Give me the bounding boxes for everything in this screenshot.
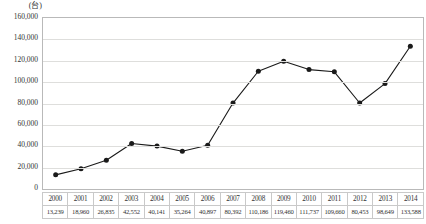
table-cell-year: 2003 xyxy=(119,193,144,206)
table-cell-year: 2000 xyxy=(43,193,68,206)
y-axis-tick-label: 0 xyxy=(34,184,38,192)
data-point-marker xyxy=(53,172,58,177)
table-cell-value: 35,264 xyxy=(169,206,194,219)
table-cell-value: 133,588 xyxy=(398,206,424,219)
y-axis-tick-label: 160,000 xyxy=(14,13,38,21)
data-point-marker xyxy=(180,149,185,154)
table-cell-year: 2012 xyxy=(347,193,372,206)
y-axis-unit-label: (台) xyxy=(29,1,42,10)
y-axis: 020,00040,00060,00080,000100,000120,0001… xyxy=(0,17,42,190)
table-cell-value: 18,960 xyxy=(68,206,93,219)
gridline xyxy=(43,168,423,169)
y-axis-tick-label: 40,000 xyxy=(17,141,38,149)
gridline xyxy=(43,61,423,62)
table-cell-value: 119,460 xyxy=(271,206,296,219)
table-cell-year: 2006 xyxy=(195,193,220,206)
table-cell-year: 2013 xyxy=(373,193,398,206)
plot-area xyxy=(42,17,424,190)
gridline xyxy=(43,125,423,126)
gridline xyxy=(43,104,423,105)
table-cell-value: 111,737 xyxy=(296,206,321,219)
gridline xyxy=(43,146,423,147)
plot-inner xyxy=(43,18,423,189)
table-cell-year: 2014 xyxy=(398,193,424,206)
table-cell-value: 110,186 xyxy=(246,206,271,219)
table-cell-year: 2007 xyxy=(220,193,245,206)
table-cell-year: 2011 xyxy=(322,193,347,206)
data-point-marker xyxy=(104,158,109,163)
y-axis-tick-label: 80,000 xyxy=(17,99,38,107)
table-row-years: 2000200120022003200420052006200720082009… xyxy=(43,193,424,206)
data-point-marker xyxy=(408,44,413,49)
table-cell-value: 80,392 xyxy=(220,206,245,219)
chart-figure: (台) 020,00040,00060,00080,000100,000120,… xyxy=(0,0,426,224)
table-cell-year: 2010 xyxy=(296,193,321,206)
data-point-marker xyxy=(307,67,312,72)
data-table: 2000200120022003200420052006200720082009… xyxy=(42,192,424,219)
table-cell-year: 2001 xyxy=(68,193,93,206)
table-cell-year: 2004 xyxy=(144,193,169,206)
y-axis-tick-label: 100,000 xyxy=(14,77,38,85)
y-axis-tick-label: 20,000 xyxy=(17,163,38,171)
y-axis-tick-label: 60,000 xyxy=(17,120,38,128)
table-cell-value: 109,660 xyxy=(322,206,347,219)
y-axis-tick-label: 120,000 xyxy=(14,56,38,64)
table-cell-year: 2005 xyxy=(169,193,194,206)
gridline xyxy=(43,39,423,40)
table-cell-year: 2008 xyxy=(246,193,271,206)
gridline xyxy=(43,82,423,83)
table-cell-value: 40,897 xyxy=(195,206,220,219)
data-table-wrapper: 2000200120022003200420052006200720082009… xyxy=(42,192,424,219)
table-cell-value: 26,835 xyxy=(93,206,118,219)
table-cell-value: 98,649 xyxy=(373,206,398,219)
table-cell-value: 42,552 xyxy=(119,206,144,219)
y-axis-tick-label: 140,000 xyxy=(14,34,38,42)
table-cell-value: 13,239 xyxy=(43,206,68,219)
table-row-values: 13,23918,96026,83542,55240,14135,26440,8… xyxy=(43,206,424,219)
data-point-marker xyxy=(256,69,261,74)
data-point-marker xyxy=(332,69,337,74)
table-cell-year: 2002 xyxy=(93,193,118,206)
table-cell-value: 40,141 xyxy=(144,206,169,219)
table-cell-value: 80,453 xyxy=(347,206,372,219)
table-cell-year: 2009 xyxy=(271,193,296,206)
series-line xyxy=(56,46,411,175)
